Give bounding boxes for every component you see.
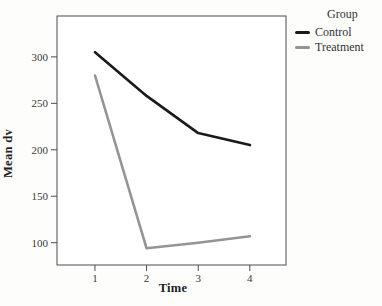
y-axis-label: Mean dv xyxy=(1,124,16,184)
legend-item-treatment: Treatment xyxy=(295,40,364,55)
legend: Group Control Treatment xyxy=(295,7,364,55)
treatment-line-swatch xyxy=(295,46,310,49)
y-tick-label: 150 xyxy=(32,190,49,202)
x-tick-label: 4 xyxy=(247,272,253,284)
legend-label-control: Control xyxy=(315,25,352,40)
legend-label-treatment: Treatment xyxy=(315,40,364,55)
y-tick-label: 100 xyxy=(32,237,49,249)
y-tick-label: 300 xyxy=(32,51,49,63)
legend-item-control: Control xyxy=(295,25,364,40)
chart-container: 1001502002503001234 Mean dv Time Group C… xyxy=(0,0,382,306)
x-axis-label: Time xyxy=(146,281,200,296)
plot-frame xyxy=(57,16,286,265)
legend-title: Group xyxy=(327,7,364,22)
y-tick-label: 200 xyxy=(32,144,49,156)
y-tick-label: 250 xyxy=(32,97,49,109)
x-tick-label: 1 xyxy=(92,272,98,284)
control-line-swatch xyxy=(295,31,310,34)
